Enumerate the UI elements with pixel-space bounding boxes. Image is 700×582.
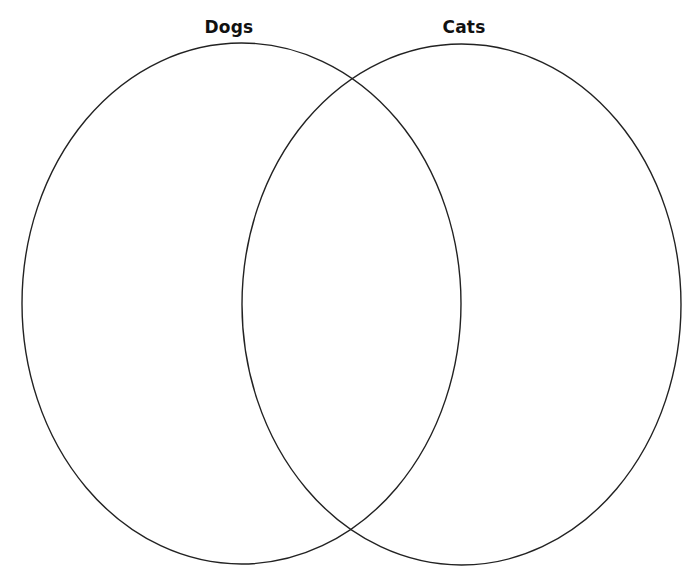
- dogs-label: Dogs: [205, 17, 254, 37]
- cats-label: Cats: [443, 17, 486, 37]
- venn-diagram: [0, 0, 700, 582]
